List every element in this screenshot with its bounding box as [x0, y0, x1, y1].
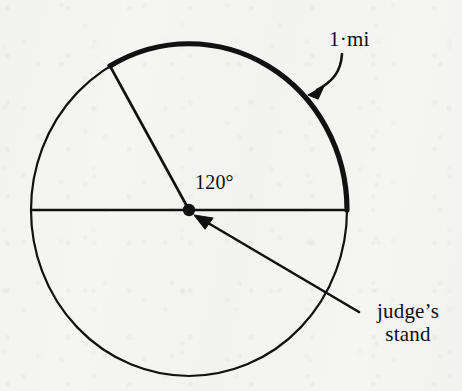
judges-stand-label-line1: judge’s	[377, 299, 439, 323]
judges-stand-label-line2: stand	[362, 323, 454, 346]
arc-length-callout-arrowhead	[308, 86, 324, 99]
judges-stand-callout-arrow-shaft	[203, 220, 359, 312]
radius-120-degrees	[110, 66, 189, 210]
judges-stand-callout-arrowhead	[194, 215, 213, 229]
judges-stand-label: judge’sstand	[362, 300, 454, 345]
arc-length-callout-arrow-shaft	[317, 54, 342, 90]
judges-stand-center-dot	[183, 204, 195, 216]
arc-length-label: 1·mi	[329, 28, 369, 51]
figure-canvas: 1·mi 120° judge’sstand	[0, 0, 462, 391]
central-angle-label: 120°	[195, 172, 234, 194]
